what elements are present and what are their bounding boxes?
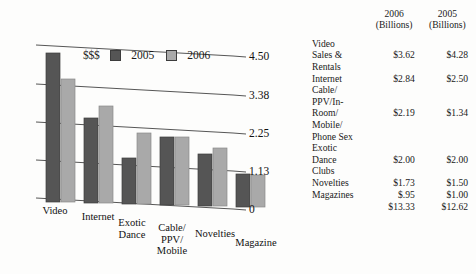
bar-2005-exotic-dance	[122, 158, 136, 204]
table-row: Exotic Dance Clubs $2.00 $2.00	[312, 142, 476, 177]
row-label-video-sales-rentals: Video Sales & Rentals	[312, 38, 370, 73]
row-label-cable-ppv-mobile-phone-sex: Cable/ PPV/In- Room/ Mobile/ Phone Sex	[312, 84, 370, 142]
table-row: Internet $2.84 $2.50	[312, 73, 476, 85]
table-element: 2006 (Billions) 2005 (Billions) Video Sa…	[312, 8, 476, 213]
figure-root: 4.50 3.38 2.25 1.13 0 $$$ 2005 2006 Vide…	[0, 0, 476, 274]
th-2005: 2005 (Billions)	[423, 8, 476, 38]
bar-2005-novelties	[198, 154, 212, 206]
bar-2005-internet	[84, 118, 98, 203]
row-label-exotic-dance-clubs: Exotic Dance Clubs	[312, 142, 370, 177]
row-2006-novelties: $1.73	[370, 177, 423, 189]
table-head: 2006 (Billions) 2005 (Billions)	[312, 8, 476, 38]
bar-2006-internet	[99, 106, 113, 203]
ytick-label-3: 1.13	[249, 165, 269, 177]
row-label-internet: Internet	[312, 73, 370, 85]
tick-2-25	[233, 133, 246, 134]
row-2005-magazines: $1.00	[423, 189, 476, 201]
ytick-label-0: 4.50	[249, 50, 269, 62]
row-2006-video-sales-rentals: $3.62	[370, 38, 423, 73]
bar-2005-cable-ppv-mobile	[160, 137, 174, 205]
tick-1-13	[233, 171, 246, 172]
row-2005-internet: $2.50	[423, 73, 476, 85]
row-label-novelties: Novelties	[312, 177, 370, 189]
tick-4-50	[233, 56, 246, 57]
th-2006: 2006 (Billions)	[370, 8, 423, 38]
tick-0	[233, 209, 246, 210]
row-2005-exotic-dance-clubs: $2.00	[423, 142, 476, 177]
ytick-label-2: 2.25	[249, 127, 269, 139]
bar-2006-video	[61, 79, 75, 202]
table-header-row: 2006 (Billions) 2005 (Billions)	[312, 8, 476, 38]
tick-3-38	[233, 95, 246, 96]
th-category	[312, 8, 370, 38]
table-row: Novelties $1.73 $1.50	[312, 177, 476, 189]
total-2005: $12.62	[423, 200, 476, 213]
legend-swatch-2005-icon	[110, 50, 121, 61]
row-2006-magazines: $.95	[370, 189, 423, 201]
row-2005-cable-ppv-mobile-phone-sex: $1.34	[423, 84, 476, 142]
legend-label-2005: 2005	[131, 49, 154, 61]
bar-2006-novelties	[213, 148, 227, 206]
legend-swatch-2006-icon	[166, 50, 177, 61]
bar-2006-exotic-dance	[137, 133, 151, 204]
table-body: Video Sales & Rentals $3.62 $4.28 Intern…	[312, 38, 476, 213]
table-total-row: $13.33 $12.62	[312, 200, 476, 213]
xaxis-label-magazine: Magazine	[226, 237, 286, 249]
row-2005-novelties: $1.50	[423, 177, 476, 189]
row-2005-video-sales-rentals: $4.28	[423, 38, 476, 73]
row-2006-cable-ppv-mobile-phone-sex: $2.19	[370, 84, 423, 142]
row-label-magazines: Magazines	[312, 189, 370, 201]
bar-2005-video	[46, 53, 60, 202]
total-2006: $13.33	[370, 200, 423, 213]
table-row: Cable/ PPV/In- Room/ Mobile/ Phone Sex $…	[312, 84, 476, 142]
ytick-label-1: 3.38	[249, 89, 269, 101]
bar-2006-cable-ppv-mobile	[175, 137, 189, 205]
bar-2005-magazine	[236, 174, 250, 207]
row-label-total	[312, 200, 370, 213]
row-2006-internet: $2.84	[370, 73, 423, 85]
data-table: 2006 (Billions) 2005 (Billions) Video Sa…	[312, 8, 476, 213]
row-2006-exotic-dance-clubs: $2.00	[370, 142, 423, 177]
table-row: Magazines $.95 $1.00	[312, 189, 476, 201]
bar-chart: 4.50 3.38 2.25 1.13 0 $$$ 2005 2006 Vide…	[0, 0, 300, 274]
legend-title: $$$	[83, 49, 99, 61]
ytick-label-4: 0	[249, 203, 255, 215]
chart-legend: $$$ 2005 2006	[83, 49, 215, 61]
table-row: Video Sales & Rentals $3.62 $4.28	[312, 38, 476, 73]
legend-label-2006: 2006	[187, 49, 210, 61]
